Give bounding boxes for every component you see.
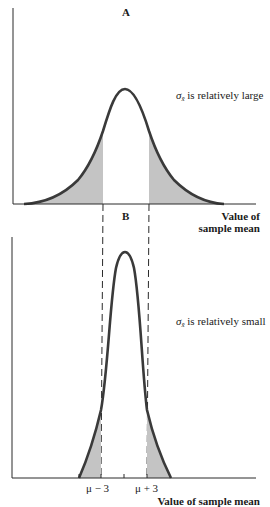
panel-a-right-tail-shade bbox=[149, 131, 224, 204]
panel-a-normal-curve bbox=[24, 89, 224, 204]
sigma-subscript: x̄ bbox=[181, 95, 184, 103]
panel-b-tick-label-mu-plus-3: μ + 3 bbox=[135, 482, 158, 494]
sampling-distribution-figure bbox=[0, 0, 270, 507]
panel-b-title: B bbox=[122, 210, 129, 222]
panel-a-note-text: is relatively large bbox=[187, 89, 263, 101]
panel-b-normal-curve bbox=[79, 252, 171, 478]
panel-a-sigma-note: σx̄ is relatively large bbox=[176, 89, 263, 103]
panel-a-x-axis-title: Value of sample mean bbox=[199, 210, 260, 234]
panel-a-x-axis-title-line1: Value of bbox=[199, 210, 260, 222]
panel-a-x-axis-title-line2: sample mean bbox=[199, 222, 260, 234]
panel-b-plot bbox=[12, 237, 256, 478]
dashed-guide-left bbox=[101, 204, 103, 478]
panel-b-tick-label-mu-minus-3: μ − 3 bbox=[86, 482, 109, 494]
panel-b-sigma-note: σx̄ is relatively small bbox=[176, 315, 266, 329]
panel-a-plot bbox=[13, 8, 256, 204]
panel-b-note-text: is relatively small bbox=[187, 315, 265, 327]
panel-a-title: A bbox=[122, 6, 130, 18]
panel-b-x-axis-title: Value of sample mean bbox=[157, 495, 260, 507]
sigma-subscript: x̄ bbox=[181, 321, 184, 329]
